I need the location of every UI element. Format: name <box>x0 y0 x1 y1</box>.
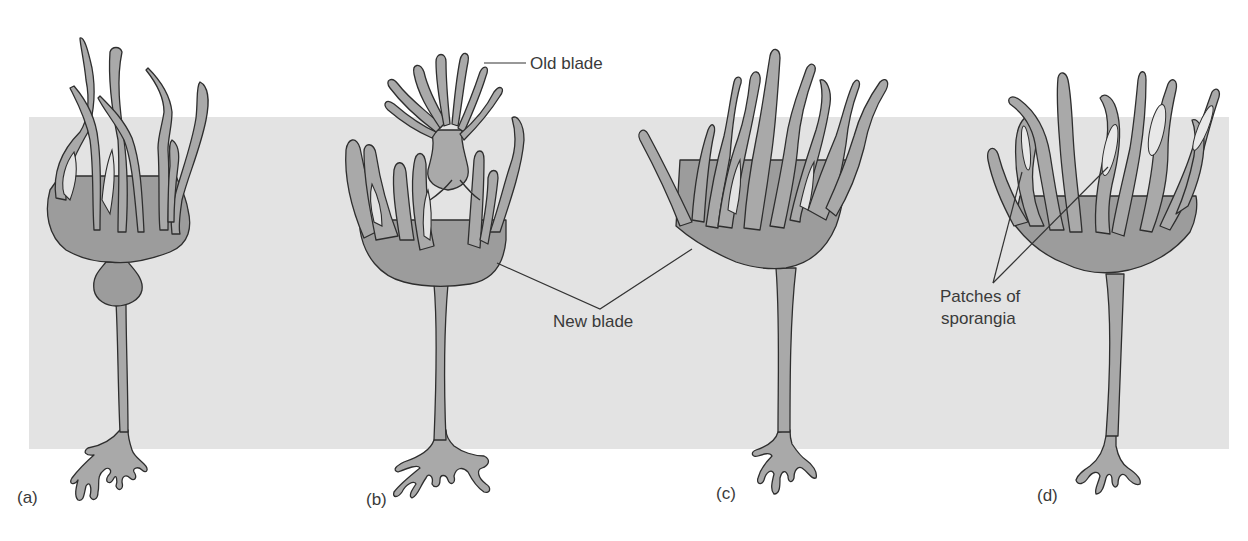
kelp-plant-a <box>47 38 208 501</box>
kelp-plant-c <box>639 49 888 494</box>
new-blade-leader <box>497 249 692 309</box>
panel-label-a: (a) <box>17 489 38 506</box>
new-blade-label: New blade <box>553 313 633 330</box>
panel-label-d: (d) <box>1037 487 1058 504</box>
kelp-plant-d <box>988 72 1220 494</box>
sporangia-label-line2: sporangia <box>941 310 1016 327</box>
kelp-plant-b <box>346 53 524 498</box>
panel-label-c: (c) <box>716 485 736 502</box>
sporangia-label-line1: Patches of <box>940 288 1020 305</box>
kelp-illustrations <box>0 0 1248 541</box>
old-blade-label: Old blade <box>530 55 603 72</box>
panel-label-b: (b) <box>366 491 387 508</box>
